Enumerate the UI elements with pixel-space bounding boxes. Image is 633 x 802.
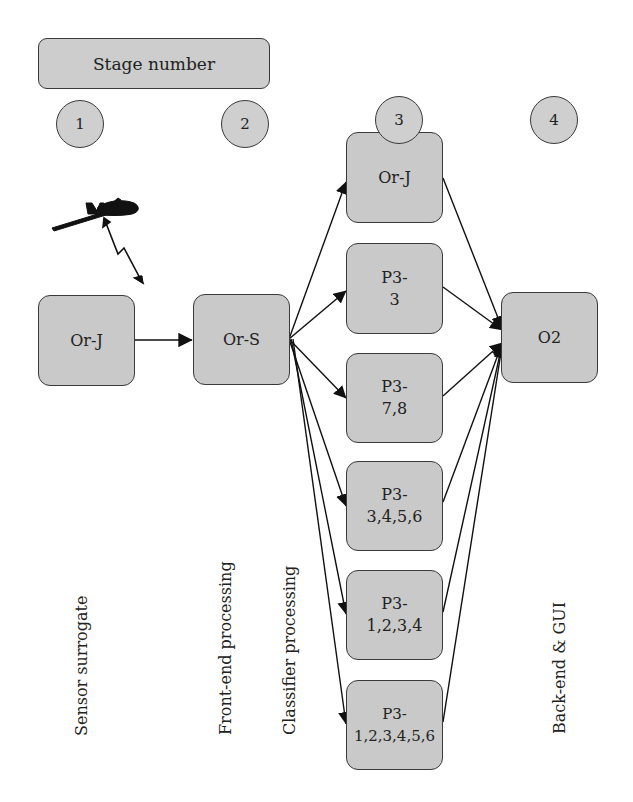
node-label: O2 [538, 327, 561, 349]
stage-3-label: Classifier processing [280, 566, 299, 735]
node-classifier-p3-3: P3- 3 [346, 243, 443, 334]
stage-2-number: 2 [240, 115, 250, 133]
stage-4-label: Back-end & GUI [550, 602, 569, 734]
node-label-line1: P3- [381, 593, 407, 615]
edges-classifiers-to-o2 [443, 178, 502, 722]
stage-number-legend: Stage number [38, 38, 270, 89]
node-label: Or-S [223, 329, 260, 351]
node-label-line2: 1,2,3,4,5,6 [354, 725, 435, 747]
stage-3-badge: 3 [375, 96, 423, 144]
node-classifier-p3-1-2-3-4-5-6: P3- 1,2,3,4,5,6 [346, 680, 443, 770]
node-label-line1: P3- [381, 267, 407, 289]
stage-4-badge: 4 [530, 96, 578, 144]
node-classifier-p3-7-8: P3- 7,8 [346, 353, 443, 443]
node-label-line2: 1,2,3,4 [367, 615, 423, 637]
stage-3-number: 3 [394, 111, 404, 129]
stage-2-badge: 2 [221, 100, 269, 148]
stage-number-legend-label: Stage number [93, 54, 215, 74]
stage-1-number: 1 [75, 115, 85, 133]
node-classifier-p3-1-2-3-4: P3- 1,2,3,4 [346, 570, 443, 660]
node-label: Or-J [378, 167, 411, 189]
wireless-link-zigzag-icon [103, 218, 143, 283]
stage-4-number: 4 [549, 111, 559, 129]
stage-1-label: Sensor surrogate [72, 596, 91, 736]
stage-2-label: Front-end processing [216, 561, 235, 735]
node-label-line1: P3- [382, 703, 407, 725]
node-classifier-or-j: Or-J [346, 132, 443, 223]
node-front-or-s: Or-S [193, 294, 290, 385]
node-label-line1: P3- [381, 376, 407, 398]
node-label-line1: P3- [381, 484, 407, 506]
node-label-line2: 7,8 [382, 398, 407, 420]
node-label-line2: 3,4,5,6 [367, 506, 423, 528]
node-backend-o2: O2 [501, 292, 598, 383]
node-label: Or-J [70, 330, 103, 352]
uav-aircraft-icon [52, 198, 138, 231]
node-label-line2: 3 [389, 289, 399, 311]
node-sensor-or-j: Or-J [38, 295, 135, 386]
node-classifier-p3-3-4-5-6: P3- 3,4,5,6 [346, 461, 443, 551]
stage-1-badge: 1 [56, 100, 104, 148]
